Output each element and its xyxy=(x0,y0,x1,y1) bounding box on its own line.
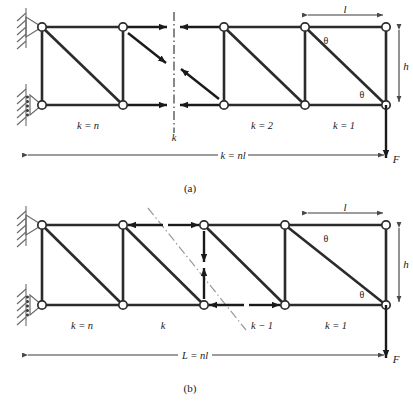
support-pin-wall-a xyxy=(17,8,26,49)
cut-force-arrows-b xyxy=(128,225,280,305)
force-label-b: F xyxy=(392,353,400,365)
dim-label-h-a: h xyxy=(403,60,409,72)
support-pin-wall-b xyxy=(17,206,26,247)
angle-label-top-b: θ xyxy=(324,233,329,244)
angle-label-bottom-b: θ xyxy=(360,289,365,300)
dim-label-h-b: h xyxy=(403,258,409,270)
panel-b: l h θ θ F k = n k k − 1 k = 1 L = nl (b) xyxy=(17,201,409,395)
support-roller-wall-a xyxy=(17,84,26,126)
arrow-diag-right-a xyxy=(181,69,219,99)
panel-label-a-3: k = 1 xyxy=(333,120,355,131)
panel-label-a-0: k = n xyxy=(77,120,99,131)
angle-label-top-a: θ xyxy=(324,35,329,46)
panel-label-b-3: k = 1 xyxy=(325,320,347,331)
panel-a: l h θ θ F k = n k k = 2 k = 1 k = nl (a) xyxy=(17,3,409,195)
dim-label-l-b: l xyxy=(343,201,346,213)
caption-b: (b) xyxy=(184,382,197,395)
panel-label-b-1: k xyxy=(161,320,166,331)
truss-members-b-left xyxy=(42,225,204,305)
panel-label-b-0: k = n xyxy=(71,320,93,331)
span-label-b: L = nl xyxy=(181,350,208,361)
caption-a: (a) xyxy=(184,182,197,195)
cut-label-a: k xyxy=(172,132,177,143)
angle-label-bottom-a: θ xyxy=(360,89,365,100)
dim-label-l-a: l xyxy=(343,3,346,15)
force-label-a: F xyxy=(392,153,400,165)
panel-label-a-2: k = 2 xyxy=(251,120,274,131)
arrow-diag-left-a xyxy=(128,33,166,63)
support-roller-wall-b xyxy=(17,284,26,326)
truss-figure: l h θ θ F k = n k k = 2 k = 1 k = nl (a) xyxy=(0,0,413,405)
panel-label-b-2: k − 1 xyxy=(251,320,273,331)
span-label-a: k = nl xyxy=(220,150,245,161)
truss-members-a-left xyxy=(42,27,123,105)
